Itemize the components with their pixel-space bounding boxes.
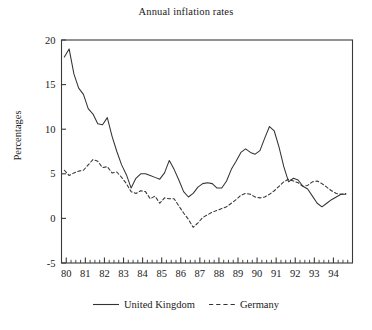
y-tick-label: -5 xyxy=(47,258,56,269)
legend-entry-germany: Germany xyxy=(209,299,279,310)
legend-line-solid-icon xyxy=(93,301,119,308)
x-tick-label: 87 xyxy=(195,268,206,279)
x-tick-label: 91 xyxy=(271,268,282,279)
x-axis-ticks: 808182838485868788899091929394 xyxy=(61,258,339,279)
y-tick-label: 15 xyxy=(45,79,56,90)
x-tick-label: 80 xyxy=(61,268,72,279)
legend-line-dashed-icon xyxy=(209,301,235,308)
x-tick-label: 85 xyxy=(156,268,167,279)
x-tick-label: 81 xyxy=(80,268,91,279)
plot-area: -505101520 80818283848586878889909192939… xyxy=(0,0,372,330)
x-tick-label: 88 xyxy=(214,268,225,279)
x-tick-label: 86 xyxy=(176,268,187,279)
y-tick-label: 5 xyxy=(50,168,55,179)
x-tick-label: 89 xyxy=(233,268,244,279)
x-tick-label: 94 xyxy=(328,268,339,279)
axis-frame xyxy=(62,40,353,263)
x-tick-label: 84 xyxy=(137,268,148,279)
chart-figure: Annual inflation rates Percentages -5051… xyxy=(0,0,372,330)
y-tick-label: 20 xyxy=(45,35,56,46)
legend-label-germany: Germany xyxy=(240,299,279,310)
y-axis-ticks: -505101520 xyxy=(45,35,66,269)
data-series-group xyxy=(64,49,345,227)
x-tick-label: 93 xyxy=(309,268,320,279)
series-line-germany xyxy=(64,160,345,228)
x-tick-label: 82 xyxy=(99,268,110,279)
y-tick-label: 10 xyxy=(45,124,56,135)
legend-label-united-kingdom: United Kingdom xyxy=(124,299,195,310)
legend-entry-united-kingdom: United Kingdom xyxy=(93,299,195,310)
x-tick-label: 92 xyxy=(290,268,301,279)
chart-legend: United Kingdom Germany xyxy=(0,299,372,310)
y-tick-label: 0 xyxy=(50,213,55,224)
x-tick-label: 83 xyxy=(118,268,129,279)
x-tick-label: 90 xyxy=(252,268,263,279)
series-line-united-kingdom xyxy=(64,49,345,207)
